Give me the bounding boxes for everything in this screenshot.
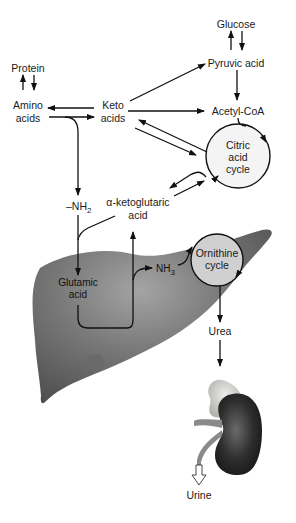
label-amino-acids-2: acids — [16, 112, 41, 124]
label-alpha-ketoglutaric-1: α-ketoglutaric — [106, 196, 169, 208]
label-urea: Urea — [209, 325, 232, 337]
label-nh2: –NH2 — [66, 200, 92, 215]
label-citric-2: acid — [228, 151, 247, 163]
label-urine: Urine — [186, 489, 211, 501]
label-alpha-ketoglutaric-2: acid — [128, 209, 147, 221]
metabolism-diagram: Glucose Pyruvic acid Protein Amino acids… — [0, 0, 296, 523]
kidney-illustration — [192, 380, 262, 485]
label-citric-3: cycle — [226, 163, 250, 175]
label-protein: Protein — [11, 62, 44, 74]
label-keto-acids-1: Keto — [102, 99, 124, 111]
label-ornithine-2: cycle — [205, 259, 229, 271]
label-citric-1: Citric — [226, 139, 250, 151]
label-amino-acids-1: Amino — [13, 99, 43, 111]
label-pyruvic-acid: Pyruvic acid — [208, 57, 265, 69]
label-ornithine-1: Ornithine — [196, 247, 239, 259]
label-keto-acids-2: acids — [101, 112, 126, 124]
label-glucose: Glucose — [217, 18, 256, 30]
label-glutamic-1: Glutamic — [58, 277, 97, 288]
label-acetyl-coa: Acetyl-CoA — [212, 105, 265, 117]
label-glutamic-2: acid — [69, 289, 87, 300]
